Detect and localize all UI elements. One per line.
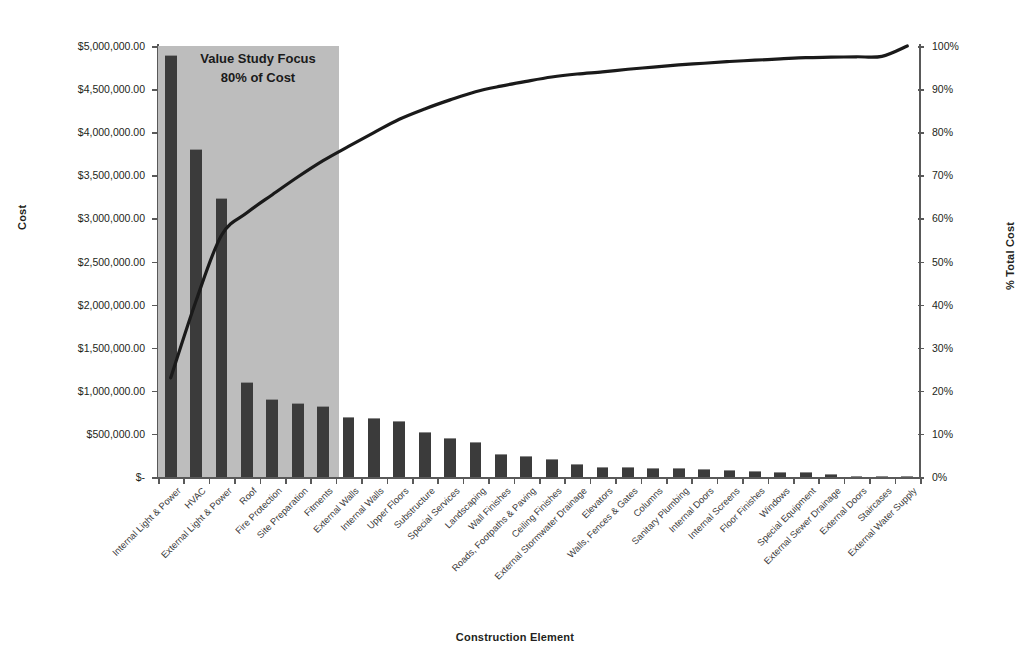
x-axis-tick	[260, 477, 262, 484]
x-axis-tick	[742, 477, 744, 484]
cumulative-percent-line	[158, 46, 920, 477]
y-axis-right-tick-label: 20%	[932, 385, 953, 397]
x-axis-tick	[285, 477, 287, 484]
y-axis-right-tick-label: 50%	[932, 256, 953, 268]
x-axis-title-construction-element: Construction Element	[0, 631, 1030, 643]
x-axis-tick	[514, 477, 516, 484]
y-axis-left-tick-label: $4,500,000.00	[0, 83, 145, 95]
x-axis-tick	[717, 477, 719, 484]
x-axis-tick	[209, 477, 211, 484]
x-axis-tick	[336, 477, 338, 484]
x-axis-tick	[234, 477, 236, 484]
annotation-line-1: Value Study Focus	[178, 50, 338, 69]
x-axis-tick	[158, 477, 160, 484]
annotation-line-2: 80% of Cost	[178, 69, 338, 88]
x-axis-tick	[437, 477, 439, 484]
x-axis-tick	[361, 477, 363, 484]
x-axis-tick	[818, 477, 820, 484]
x-axis-tick	[590, 477, 592, 484]
x-axis-tick	[564, 477, 566, 484]
y-axis-left-tick-label: $5,000,000.00	[0, 40, 145, 52]
y-axis-left-tick-label: $1,000,000.00	[0, 385, 145, 397]
y-axis-left-tick-label: $3,500,000.00	[0, 169, 145, 181]
y-axis-title-percent-total-cost: % Total Cost	[1004, 222, 1016, 290]
x-axis-tick	[895, 477, 897, 484]
y-axis-left-tick-label: $1,500,000.00	[0, 342, 145, 354]
x-axis-tick	[539, 477, 541, 484]
x-axis-tick	[463, 477, 465, 484]
value-study-annotation: Value Study Focus 80% of Cost	[178, 50, 338, 88]
y-axis-left-tick-label: $-	[0, 471, 145, 483]
y-axis-left-tick-label: $500,000.00	[0, 428, 145, 440]
x-axis-tick	[691, 477, 693, 484]
x-axis-tick	[844, 477, 846, 484]
y-axis-right-tick-label: 0%	[932, 471, 947, 483]
y-axis-right-tick-label: 30%	[932, 342, 953, 354]
plot-area	[158, 46, 920, 477]
y-axis-right-tick-label: 60%	[932, 212, 953, 224]
y-axis-right-tick-label: 10%	[932, 428, 953, 440]
y-axis-right-tick-label: 80%	[932, 126, 953, 138]
x-axis-tick	[641, 477, 643, 484]
y-axis-right-tick-label: 70%	[932, 169, 953, 181]
x-axis-tick	[666, 477, 668, 484]
x-axis-tick	[768, 477, 770, 484]
x-axis-tick	[488, 477, 490, 484]
x-axis-tick	[387, 477, 389, 484]
y-axis-left-tick-label: $4,000,000.00	[0, 126, 145, 138]
x-axis-tick	[412, 477, 414, 484]
y-axis-right-tick-label: 90%	[932, 83, 953, 95]
x-axis-tick	[869, 477, 871, 484]
pareto-chart: Cost % Total Cost Construction Element $…	[0, 0, 1030, 667]
x-axis-tick	[615, 477, 617, 484]
y-axis-right-tick-label: 40%	[932, 299, 953, 311]
x-axis-tick	[310, 477, 312, 484]
x-axis-tick	[793, 477, 795, 484]
y-axis-right-tick-label: 100%	[932, 40, 959, 52]
x-axis-tick	[183, 477, 185, 484]
x-axis-tick	[920, 477, 922, 484]
y-axis-left-tick-label: $2,500,000.00	[0, 256, 145, 268]
x-axis-category-label: Roof	[237, 485, 259, 507]
cumulative-line-path	[171, 46, 908, 378]
y-axis-left-tick-label: $3,000,000.00	[0, 212, 145, 224]
y-axis-left-tick-label: $2,000,000.00	[0, 299, 145, 311]
